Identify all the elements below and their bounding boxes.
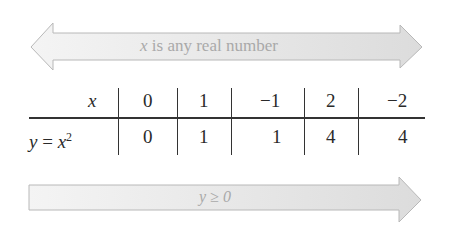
table-divider	[29, 117, 425, 119]
row-value: 1	[199, 122, 209, 152]
header-value: 1	[199, 86, 209, 116]
row-value: 1	[272, 122, 282, 152]
header-value: −1	[260, 86, 280, 116]
column-divider	[231, 88, 232, 155]
row-value: 4	[326, 122, 336, 152]
domain-label: x is any real number	[140, 36, 278, 56]
column-divider	[304, 88, 305, 155]
row-value: 4	[398, 122, 408, 152]
header-value: 2	[326, 86, 336, 116]
header-value: 0	[143, 86, 153, 116]
column-divider	[118, 88, 119, 155]
row-value: 0	[143, 122, 153, 152]
column-divider	[177, 88, 178, 155]
header-value: −2	[387, 86, 407, 116]
column-divider	[358, 88, 359, 155]
range-label: y ≥ 0	[199, 188, 231, 206]
row-label-y-eq-x2: y = x2	[29, 122, 72, 152]
header-label-x: x	[88, 86, 96, 116]
